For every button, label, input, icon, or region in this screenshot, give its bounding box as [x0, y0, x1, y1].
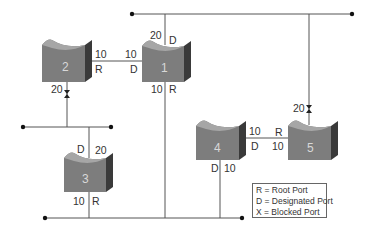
bus-endpoint-icon — [240, 216, 244, 220]
legend-item-blocked: X = Blocked Port — [256, 207, 323, 218]
port-cost-label: 10 — [272, 141, 284, 152]
port-cost-label: 10 — [224, 163, 236, 174]
blocked-port-icon — [306, 105, 312, 113]
port-cost-label: 10 — [95, 49, 107, 60]
port-cost-label: 10 — [249, 126, 261, 137]
switch-label: 3 — [82, 172, 89, 186]
port-role-label: R — [169, 84, 177, 95]
switch-label: 5 — [307, 141, 314, 155]
bus-endpoint-icon — [130, 12, 134, 16]
port-cost-label: 20 — [51, 84, 63, 95]
bus-endpoint-icon — [350, 12, 354, 16]
port-role-label: R — [275, 127, 283, 138]
switch-label: 1 — [161, 61, 168, 75]
port-cost-label: 10 — [151, 84, 163, 95]
legend-item-designated: D = Designated Port — [256, 196, 323, 207]
switch-1[interactable]: 1 — [142, 41, 191, 82]
port-role-label: R — [92, 196, 100, 207]
port-cost-label: 20 — [150, 30, 162, 41]
bus-endpoint-icon — [21, 125, 25, 129]
switch-3[interactable]: 3 — [64, 153, 113, 192]
switch-2[interactable]: 2 — [42, 40, 92, 82]
port-cost-label: 10 — [125, 49, 137, 60]
port-cost-label: 20 — [293, 103, 305, 114]
legend: R = Root Port D = Designated Port X = Bl… — [252, 183, 327, 218]
port-cost-label: 20 — [95, 145, 107, 156]
port-role-label: D — [211, 163, 219, 174]
bus-endpoint-icon — [43, 216, 47, 220]
stp-diagram: 2 1 3 4 5 10 — [0, 0, 370, 232]
switch-label: 2 — [62, 60, 69, 74]
port-role-label: D — [77, 144, 85, 155]
switch-5[interactable]: 5 — [288, 121, 338, 160]
switch-label: 4 — [214, 141, 221, 155]
port-role-label: D — [130, 64, 138, 75]
bus-endpoint-icon — [109, 125, 113, 129]
blocked-port-icon — [64, 90, 70, 98]
switch-4[interactable]: 4 — [196, 121, 246, 160]
port-role-label: D — [169, 35, 177, 46]
port-cost-label: 10 — [73, 196, 85, 207]
legend-item-root: R = Root Port — [256, 185, 323, 196]
port-role-label: D — [251, 141, 259, 152]
port-role-label: R — [95, 64, 103, 75]
